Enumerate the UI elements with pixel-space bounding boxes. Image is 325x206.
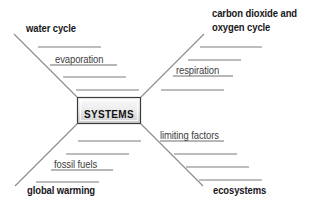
branch-heading-water-cycle: water cycle <box>26 23 76 34</box>
branch-entry-limiting-factors: limiting factors <box>160 130 219 141</box>
hub-label: SYSTEMS <box>84 109 134 120</box>
spoke-bottom-left <box>15 124 77 186</box>
branch-entry-fossil-fuels: fossil fuels <box>54 159 97 170</box>
hub-label-wrapper: SYSTEMS <box>77 104 141 122</box>
branch-heading-carbon-cycle-line2: oxygen cycle <box>212 22 270 33</box>
branch-entry-respiration: respiration <box>176 65 219 76</box>
branch-heading-global-warming: global warming <box>27 185 95 196</box>
branch-entry-evaporation: evaporation <box>55 54 103 65</box>
branch-heading-ecosystems: ecosystems <box>213 185 266 196</box>
branch-heading-carbon-cycle-line1: carbon dioxide and <box>212 8 297 19</box>
concept-map-diagram: SYSTEMS water cycle evaporation carbon d… <box>0 0 325 206</box>
